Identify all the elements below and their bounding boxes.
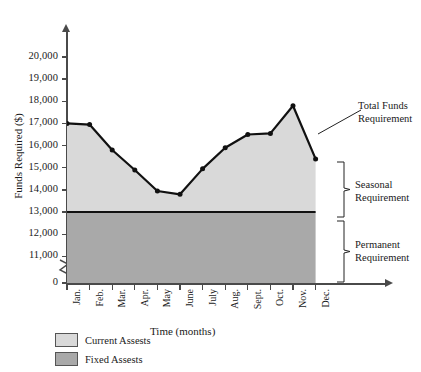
x-axis-tick [66,284,67,290]
annotation-seasonal-line2: Requirement [355,192,409,205]
x-axis-tick-label: Oct. [274,289,285,306]
y-axis-tick-label: 17,000 [0,116,58,127]
x-axis-tick [292,284,293,290]
x-axis-tick [270,284,271,290]
fixed-assets-band [67,212,316,283]
x-axis-tick-label: May [161,289,172,307]
x-axis-arrow [385,279,393,287]
data-point-marker [178,192,183,197]
annotation-permanent-line1: Permanent [355,239,409,252]
y-axis-tick-label: 12,000 [0,227,58,238]
top-edge [0,0,421,4]
data-point-marker [155,189,160,194]
x-axis-tick [134,284,135,290]
legend-swatch-current-assets [55,333,78,347]
x-axis-tick-label: Feb. [94,289,105,307]
data-point-marker [268,131,273,136]
y-axis-title: Funds Required ($) [12,91,24,221]
x-axis-tick [89,284,90,290]
y-axis-tick-label: 15,000 [0,161,58,172]
x-axis-tick-label: Mar. [116,289,127,308]
data-point-marker [291,103,296,108]
legend: Current Assests Fixed Assests [55,333,151,371]
y-axis-arrow [62,24,70,32]
annotation-seasonal-line1: Seasonal [355,179,409,192]
permanent-requirement-brace [335,220,351,284]
x-axis-tick-label: Apr. [139,289,150,307]
plot-area [67,57,333,284]
y-axis-tick-label: 20,000 [0,50,58,61]
x-axis-title: Time (months) [150,325,215,337]
legend-item-current-assets: Current Assests [55,333,151,347]
x-axis-tick-label: Nov. [297,289,308,308]
data-point-marker [110,148,115,153]
seasonal-requirement-brace [335,161,351,218]
x-axis-tick-label: Jan. [71,289,82,305]
y-axis-tick-label: 16,000 [0,139,58,150]
chart-figure: 20,00019,00018,00017,00016,00015,00014,0… [0,0,421,372]
y-axis-tick-label: 19,000 [0,72,58,83]
y-axis-tick-label: 18,000 [0,94,58,105]
x-axis-tick-label: Aug. [229,289,240,309]
data-point-marker [87,122,92,127]
annotation-permanent: Permanent Requirement [355,239,409,265]
annotation-total-funds-line2: Requirement [358,113,412,126]
annotation-permanent-line2: Requirement [355,252,409,265]
annotation-total-funds: Total Funds Requirement [358,100,412,126]
y-axis-tick-label: 13,000 [0,205,58,216]
x-axis-tick-label: June [184,289,195,307]
x-axis-tick [112,284,113,290]
x-axis-tick [179,284,180,290]
y-axis-tick-label: 14,000 [0,183,58,194]
annotation-total-funds-line1: Total Funds [358,100,412,113]
legend-label-fixed-assets: Fixed Assests [85,354,142,365]
x-axis-tick [202,284,203,290]
x-axis-tick [247,284,248,290]
y-axis-tick-label: 0 [0,276,58,287]
legend-swatch-fixed-assets [55,352,78,366]
x-axis-tick-label: Sept. [252,289,263,309]
data-point-marker [245,132,250,137]
x-axis-tick [225,284,226,290]
data-point-marker [200,166,205,171]
y-axis-tick-label: 11,000 [0,249,58,260]
legend-label-current-assets: Current Assests [85,335,151,346]
legend-item-fixed-assets: Fixed Assests [55,352,151,366]
x-axis-tick-label: July [207,289,218,306]
x-axis-tick-label: Dec. [320,289,331,308]
annotation-seasonal: Seasonal Requirement [355,179,409,205]
data-point-marker [132,167,137,172]
x-axis-tick [157,284,158,290]
x-axis-tick [315,284,316,290]
current-assets-band [67,106,316,212]
data-point-marker [223,145,228,150]
data-point-marker [313,156,318,161]
